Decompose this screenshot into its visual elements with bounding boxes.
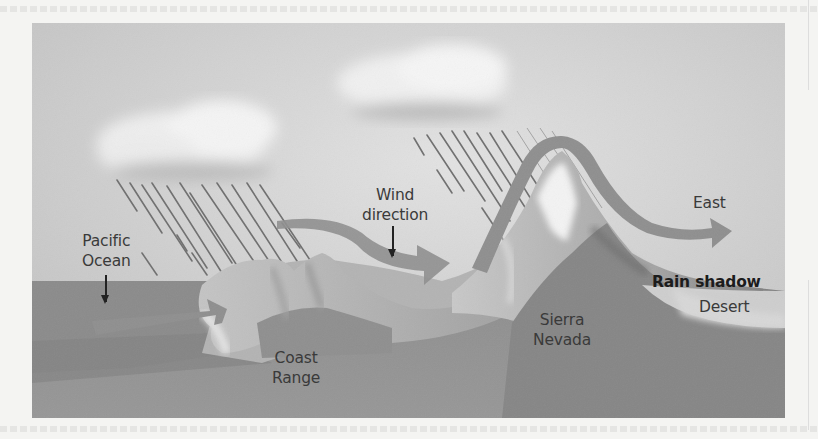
label-desert: Desert (699, 297, 749, 317)
label-pacific-ocean: Pacific Ocean (82, 231, 131, 271)
label-coast: Coast (272, 348, 320, 368)
page-text-bleed-top (0, 6, 818, 12)
wind-direction-pointer-arrow (392, 226, 394, 256)
label-nevada: Nevada (533, 330, 591, 350)
page-text-bleed-bottom (0, 426, 818, 432)
label-pacific: Pacific (82, 231, 131, 251)
label-range: Range (272, 368, 320, 388)
pacific-ocean-pointer-arrow (105, 275, 107, 302)
label-ocean: Ocean (82, 251, 131, 271)
label-sierra: Sierra (533, 310, 591, 330)
page-edge-rule-top (808, 0, 809, 90)
label-coast-range: Coast Range (272, 348, 320, 388)
label-wind-direction: Wind direction (362, 185, 428, 225)
label-direction: direction (362, 205, 428, 225)
label-sierra-nevada: Sierra Nevada (533, 310, 591, 350)
label-wind: Wind (362, 185, 428, 205)
page-edge-rule-bottom (808, 280, 809, 430)
label-east: East (693, 193, 726, 213)
rain-shadow-diagram: Pacific Ocean Wind direction East Rain s… (32, 23, 785, 418)
label-rain-shadow: Rain shadow (652, 272, 761, 292)
